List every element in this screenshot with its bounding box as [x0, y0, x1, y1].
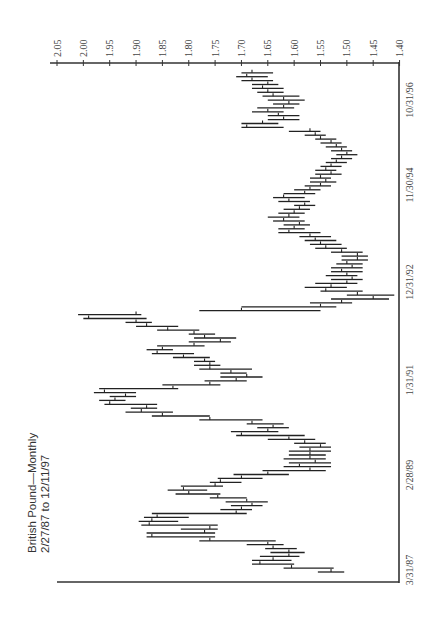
- price-tick-label: 1.70: [236, 40, 247, 58]
- price-tick-label: 1.85: [157, 40, 168, 58]
- price-tick-label: 1.45: [368, 40, 379, 58]
- date-tick-label: 11/30/94: [404, 167, 415, 202]
- price-tick-label: 1.60: [289, 40, 300, 58]
- chart-title: British Pound—Monthly: [26, 433, 39, 553]
- price-tick-label: 1.90: [131, 40, 142, 58]
- date-tick-label: 1/31/91: [404, 365, 415, 396]
- price-bars: [78, 70, 394, 572]
- chart-area: 2.052.001.951.901.851.801.751.701.651.60…: [0, 0, 438, 617]
- date-tick-label: 10/31/96: [404, 82, 415, 118]
- chart-title-block: British Pound—Monthly 2/27/87 to 12/11/9…: [26, 433, 52, 553]
- price-tick-label: 1.65: [262, 40, 273, 58]
- date-axis: 3/31/872/28/891/31/9112/31/9211/30/9410/…: [404, 82, 415, 585]
- price-axis: 2.052.001.951.901.851.801.751.701.651.60…: [52, 40, 406, 67]
- price-tick-label: 1.80: [183, 40, 194, 58]
- date-tick-label: 2/28/89: [404, 460, 415, 491]
- price-tick-label: 2.05: [52, 40, 63, 58]
- chart-subtitle: 2/27/87 to 12/11/97: [39, 433, 52, 553]
- price-tick-label: 2.00: [78, 40, 89, 58]
- price-tick-label: 1.40: [394, 40, 405, 58]
- frame: [50, 62, 399, 583]
- price-tick-label: 1.75: [210, 40, 221, 58]
- date-tick-label: 3/31/87: [404, 555, 415, 586]
- price-tick-label: 1.55: [315, 40, 326, 58]
- price-tick-label: 1.95: [104, 40, 115, 58]
- price-tick-label: 1.50: [341, 40, 352, 58]
- date-tick-label: 12/31/92: [404, 264, 415, 300]
